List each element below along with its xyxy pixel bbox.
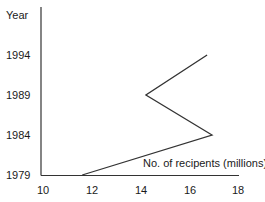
y-tick-1989: 1989	[6, 89, 36, 101]
x-tick-18: 18	[223, 184, 253, 196]
chart-canvas	[0, 0, 265, 202]
y-axis-title: Year	[6, 9, 28, 21]
x-axis-title: No. of recipents (millions)	[143, 157, 265, 169]
y-tick-1994: 1994	[6, 49, 36, 61]
x-tick-12: 12	[77, 184, 107, 196]
y-tick-1979: 1979	[6, 169, 36, 181]
x-tick-10: 10	[28, 184, 58, 196]
x-tick-16: 16	[175, 184, 205, 196]
y-tick-1984: 1984	[6, 129, 36, 141]
x-tick-14: 14	[126, 184, 156, 196]
line-chart: Year 1994 1989 1984 1979 No. of recipent…	[0, 0, 265, 202]
